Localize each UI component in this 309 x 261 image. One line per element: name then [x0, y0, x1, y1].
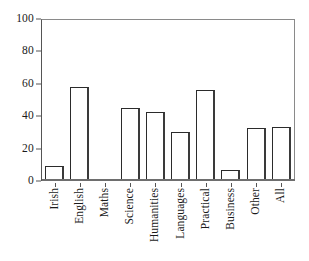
x-axis-tick-mark: [130, 183, 131, 187]
x-axis-label-slot: Irish: [42, 183, 67, 259]
x-axis-tick-mark: [206, 183, 207, 187]
bar[interactable]: [247, 128, 266, 181]
y-axis: 020406080100: [0, 19, 41, 181]
x-axis-tick-mark: [281, 183, 282, 187]
x-axis-label-slot: Maths: [92, 183, 117, 259]
bar[interactable]: [146, 112, 165, 181]
y-axis-tick-mark: [36, 51, 41, 52]
bar-slot: [244, 19, 269, 181]
x-axis-tick-label: Business: [225, 188, 237, 230]
x-axis-tick-label: Maths: [99, 188, 111, 217]
x-axis-tick-label: Science: [124, 188, 136, 224]
bar[interactable]: [196, 90, 215, 181]
y-axis-tick-mark: [36, 19, 41, 20]
y-axis-tick-label: 80: [22, 46, 34, 58]
y-axis-tick-mark: [36, 83, 41, 84]
x-axis-labels: IrishEnglishMathsScienceHumanitiesLangua…: [42, 183, 294, 259]
bar-slot: [143, 19, 168, 181]
y-axis-tick-label: 40: [22, 110, 34, 122]
x-axis-label-slot: Business: [218, 183, 243, 259]
x-axis-tick-mark: [80, 183, 81, 187]
bar-slot: [118, 19, 143, 181]
x-axis-tick-mark: [256, 183, 257, 187]
bar[interactable]: [121, 108, 140, 181]
bars-layer: [42, 19, 294, 181]
x-axis-tick-label: English: [74, 188, 86, 224]
bar-slot: [168, 19, 193, 181]
x-axis-label-slot: Languages: [168, 183, 193, 259]
x-axis-tick-mark: [55, 183, 56, 187]
x-axis-label-slot: Science: [118, 183, 143, 259]
x-axis-tick-label: All: [276, 188, 288, 203]
bar[interactable]: [171, 132, 190, 181]
y-axis-tick-label: 0: [28, 175, 34, 187]
y-axis-tick-label: 60: [22, 78, 34, 90]
bar-slot: [269, 19, 294, 181]
x-axis-label-slot: Practical: [193, 183, 218, 259]
x-axis-tick-mark: [105, 183, 106, 187]
x-axis-baseline: [42, 179, 295, 181]
y-axis-tick-mark: [36, 181, 41, 182]
bar-slot: [92, 19, 117, 181]
x-axis-label-slot: English: [67, 183, 92, 259]
y-axis-tick-label: 20: [22, 143, 34, 155]
x-axis-tick-label: Other: [250, 188, 262, 215]
bar[interactable]: [70, 87, 89, 181]
bar-slot: [42, 19, 67, 181]
x-axis-tick-mark: [155, 183, 156, 187]
x-axis-tick-label: Humanities: [150, 188, 162, 242]
x-axis-label-slot: Humanities: [143, 183, 168, 259]
bar-slot: [67, 19, 92, 181]
x-axis-tick-mark: [181, 183, 182, 187]
x-axis-tick-label: Irish: [49, 188, 61, 210]
x-axis-tick-mark: [231, 183, 232, 187]
bar-slot: [218, 19, 243, 181]
x-axis-tick-label: Practical: [200, 188, 212, 229]
y-axis-tick-mark: [36, 148, 41, 149]
y-axis-tick-mark: [36, 116, 41, 117]
x-axis-label-slot: Other: [244, 183, 269, 259]
x-axis-tick-label: Languages: [175, 188, 187, 239]
bar-chart: 020406080100 IrishEnglishMathsScienceHum…: [0, 0, 309, 261]
bar[interactable]: [272, 127, 291, 181]
x-axis-label-slot: All: [269, 183, 294, 259]
y-axis-tick-label: 100: [16, 13, 34, 25]
bar-slot: [193, 19, 218, 181]
